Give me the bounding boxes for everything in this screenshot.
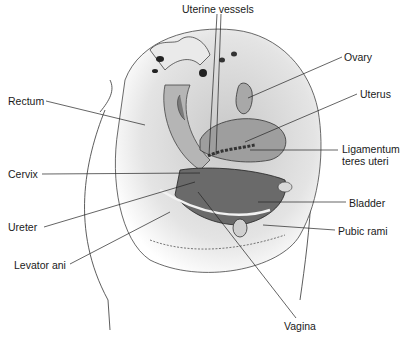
label-ligamentum: Ligamentum [342, 143, 400, 155]
label-bladder: Bladder [349, 197, 385, 209]
label-uterine-vessels: Uterine vessels [182, 3, 254, 15]
label-ureter: Ureter [8, 221, 37, 233]
label-teres-uteri: teres uteri [342, 155, 389, 167]
vessel-cross-section [199, 69, 207, 77]
pubic-bone [233, 219, 247, 237]
label-levator-ani: Levator ani [14, 259, 66, 271]
label-vagina: Vagina [284, 320, 316, 332]
label-cervix: Cervix [8, 168, 38, 180]
ureter-section [278, 182, 292, 192]
vessel-cross-section [156, 56, 164, 62]
vessel-cross-section [152, 69, 158, 73]
label-pubic-rami: Pubic rami [338, 225, 388, 237]
ovary [236, 83, 252, 114]
vessel-cross-section [231, 52, 237, 57]
vessel-cross-section [219, 58, 225, 63]
label-rectum: Rectum [8, 95, 44, 107]
label-uterus: Uterus [360, 88, 391, 100]
label-ovary: Ovary [344, 51, 372, 63]
